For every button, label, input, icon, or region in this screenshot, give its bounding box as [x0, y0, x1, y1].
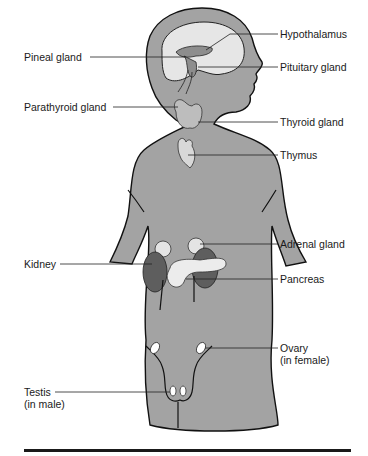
testis-right	[180, 386, 186, 396]
label-pituitary-gland: Pituitary gland	[280, 61, 347, 73]
label-thymus: Thymus	[280, 149, 317, 161]
label-parathyroid-gland: Parathyroid gland	[24, 101, 106, 113]
label-thyroid-gland: Thyroid gland	[280, 116, 344, 128]
bottom-rule	[24, 449, 351, 452]
kidney-left	[143, 252, 167, 292]
label-testis: Testis (in male)	[24, 386, 65, 410]
label-pineal-gland: Pineal gland	[24, 51, 82, 63]
label-ovary: Ovary (in female)	[280, 342, 330, 366]
label-adrenal-gland: Adrenal gland	[280, 238, 345, 250]
label-kidney: Kidney	[24, 258, 56, 270]
label-hypothalamus: Hypothalamus	[280, 28, 347, 40]
testis-left	[170, 386, 176, 396]
endocrine-diagram: Hypothalamus Pineal gland Pituitary glan…	[0, 0, 368, 456]
label-pancreas: Pancreas	[280, 273, 324, 285]
